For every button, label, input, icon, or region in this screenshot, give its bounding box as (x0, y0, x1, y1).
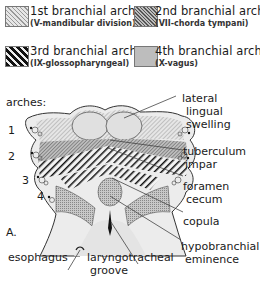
arches-label: arches: (6, 96, 46, 109)
label-hypobranchial-eminence: hypobranchial eminence (181, 240, 259, 266)
swatch-1st-arch (5, 6, 29, 27)
legend-subtitle: (V-mandibular division) (30, 19, 136, 28)
label-esophagus: esophagus (8, 251, 68, 264)
arch-number-3: 3 (22, 174, 29, 187)
legend-subtitle: (IX-glossopharyngeal) (30, 59, 129, 68)
legend-title: 4th branchial arch (155, 44, 260, 58)
label-copula: copula (183, 215, 220, 228)
arch-number-1: 1 (8, 124, 15, 137)
arch-number-4: 4 (37, 190, 44, 203)
legend-title: 2nd branchial arch (155, 4, 260, 18)
legend-title: 1st branchial arch (30, 4, 135, 18)
swatch-3rd-arch (5, 46, 29, 67)
panel-label: A. (6, 226, 17, 239)
label-tuberculum-impar: tuberculum impar (183, 145, 246, 171)
legend-subtitle: (X-vagus) (155, 59, 198, 68)
label-lateral-lingual-swelling: lateral lingual swelling (182, 92, 231, 131)
legend-title: 3rd branchial arch (30, 44, 137, 58)
legend-subtitle: (VII-chorda tympani) (155, 19, 249, 28)
label-foramen-cecum: foramen cecum (183, 180, 229, 206)
label-laryngotracheal-groove: laryngotracheal groove (87, 251, 174, 277)
arch-number-2: 2 (8, 150, 15, 163)
